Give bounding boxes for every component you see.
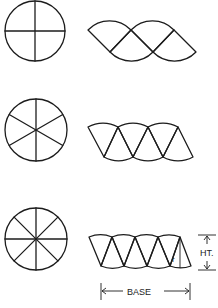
base-label: BASE: [127, 287, 151, 297]
height-label: HT.: [200, 248, 214, 258]
circle-8-sectors: [5, 208, 67, 270]
row-4-sectors: [5, 1, 196, 61]
radius-label: r: [172, 255, 175, 264]
row-8-sectors: r HT. BASE: [5, 208, 216, 300]
base-dimension: BASE: [101, 283, 190, 300]
height-dimension: HT.: [198, 235, 216, 270]
rearranged-6-sectors: [88, 123, 193, 161]
rearranged-8-sectors: [89, 235, 191, 268]
row-6-sectors: [5, 99, 193, 161]
circle-4-sectors: [5, 1, 65, 61]
circle-6-sectors: [5, 99, 67, 161]
rearranged-4-sectors: [88, 21, 196, 61]
circle-area-diagram: r HT. BASE: [0, 0, 218, 308]
